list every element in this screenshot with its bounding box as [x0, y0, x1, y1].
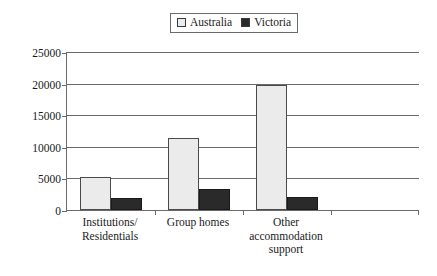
legend-swatch-victoria-icon	[241, 18, 250, 27]
ytick-label-10000: 10000	[32, 142, 61, 154]
ytick-label-5000: 5000	[38, 173, 61, 185]
ytick-label-15000: 15000	[32, 110, 61, 122]
legend-item-victoria: Victoria	[241, 16, 291, 29]
legend-label-australia: Australia	[190, 16, 232, 29]
legend-item-australia: Australia	[177, 16, 232, 29]
xaxis-label-other-accommodation-support: Other accommodation support	[242, 216, 330, 257]
xaxis-label-group-homes: Group homes	[154, 216, 242, 230]
bar-australia-institutions-residentials	[80, 177, 111, 210]
xtick-mark-2	[243, 210, 244, 215]
xtick-mark-1	[155, 210, 156, 215]
bar-australia-other-accommodation-support	[256, 85, 287, 210]
chart-legend: Australia Victoria	[170, 13, 298, 33]
ytick-mark-0	[62, 211, 67, 212]
ytick-label-25000: 25000	[32, 47, 61, 59]
bar-chart: Australia Victoria 25000 20000 15000 100…	[0, 0, 437, 276]
plot-area: 25000 20000 15000 10000 5000 0	[66, 52, 419, 211]
category-group-other-accommodation-support	[243, 52, 331, 210]
xtick-mark-4	[418, 210, 419, 215]
legend-swatch-australia-icon	[177, 18, 186, 27]
category-group-institutions-residentials	[67, 52, 155, 210]
xaxis-label-institutions-residentials: Institutions/ Residentials	[66, 216, 154, 243]
bar-victoria-institutions-residentials	[111, 198, 142, 210]
bar-victoria-group-homes	[199, 189, 230, 211]
legend-label-victoria: Victoria	[254, 16, 291, 29]
xtick-mark-3	[331, 210, 332, 215]
ytick-label-20000: 20000	[32, 79, 61, 91]
bar-australia-group-homes	[168, 138, 199, 210]
ytick-label-0: 0	[55, 205, 61, 217]
bar-victoria-other-accommodation-support	[287, 197, 318, 210]
category-group-group-homes	[155, 52, 243, 210]
